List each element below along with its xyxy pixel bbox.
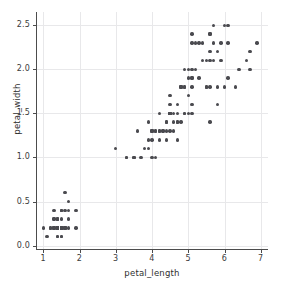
- x-axis-tick: [225, 250, 226, 253]
- data-point: [45, 235, 48, 238]
- data-point: [176, 112, 179, 115]
- y-axis-tick-label: 1.5: [4, 108, 30, 117]
- data-point: [52, 209, 55, 212]
- x-axis-tick: [152, 250, 153, 253]
- data-point: [168, 103, 171, 106]
- y-axis-tick-label: 0.0: [4, 241, 30, 250]
- x-gridline: [188, 12, 189, 250]
- data-point: [147, 147, 150, 150]
- y-axis-tick-label: 2.5: [4, 20, 30, 29]
- x-axis-tick-label: 3: [106, 254, 126, 263]
- data-point: [197, 76, 200, 79]
- data-point: [201, 41, 204, 44]
- data-point: [187, 94, 190, 97]
- data-point: [208, 59, 211, 62]
- data-point: [190, 85, 193, 88]
- data-point: [226, 24, 229, 27]
- data-point: [67, 209, 70, 212]
- x-axis-tick-label: 1: [33, 254, 53, 263]
- x-axis-label: petal_length: [36, 268, 268, 278]
- x-gridline: [80, 12, 81, 250]
- y-axis-tick-label: 2.0: [4, 64, 30, 73]
- data-point: [154, 156, 157, 159]
- x-axis-tick-label: 2: [70, 254, 90, 263]
- data-point: [212, 41, 215, 44]
- data-point: [172, 120, 175, 123]
- data-point: [208, 50, 211, 53]
- data-point: [248, 50, 251, 53]
- data-point: [183, 112, 186, 115]
- data-point: [183, 68, 186, 71]
- x-axis-tick: [80, 250, 81, 253]
- data-point: [60, 217, 63, 220]
- data-point: [187, 76, 190, 79]
- data-point: [136, 129, 139, 132]
- data-point: [172, 112, 175, 115]
- x-axis-tick: [116, 250, 117, 253]
- y-axis-tick: [33, 25, 36, 26]
- data-point: [67, 217, 70, 220]
- data-point: [161, 129, 164, 132]
- data-point: [42, 226, 45, 229]
- x-axis-tick: [261, 250, 262, 253]
- data-point: [205, 85, 208, 88]
- x-axis-tick: [188, 250, 189, 253]
- data-point: [216, 85, 219, 88]
- data-point: [60, 226, 63, 229]
- data-point: [212, 24, 215, 27]
- data-point: [139, 156, 142, 159]
- data-point: [60, 235, 63, 238]
- data-point: [125, 156, 128, 159]
- data-point: [147, 120, 150, 123]
- x-axis-tick-label: 6: [215, 254, 235, 263]
- data-point: [63, 209, 66, 212]
- y-axis-tick-label: 1.0: [4, 152, 30, 161]
- data-point: [234, 85, 237, 88]
- data-point: [183, 85, 186, 88]
- data-point: [226, 41, 229, 44]
- y-gridline: [36, 202, 268, 203]
- x-axis-tick-label: 4: [142, 254, 162, 263]
- data-point: [56, 217, 59, 220]
- data-point: [67, 200, 70, 203]
- y-axis-spine: [36, 12, 37, 250]
- data-point: [74, 226, 77, 229]
- y-axis-tick: [33, 246, 36, 247]
- data-point: [165, 138, 168, 141]
- data-point: [237, 68, 240, 71]
- data-point: [190, 32, 193, 35]
- y-gridline: [36, 246, 268, 247]
- data-point: [63, 191, 66, 194]
- data-point: [208, 120, 211, 123]
- data-point: [63, 226, 66, 229]
- data-point: [190, 112, 193, 115]
- data-point: [223, 85, 226, 88]
- data-point: [208, 32, 211, 35]
- data-point: [179, 120, 182, 123]
- data-point: [158, 112, 161, 115]
- y-axis-tick: [33, 202, 36, 203]
- x-axis-tick: [43, 250, 44, 253]
- data-point: [255, 41, 258, 44]
- y-gridline: [36, 25, 268, 26]
- data-point: [132, 156, 135, 159]
- x-gridline: [225, 12, 226, 250]
- data-point: [143, 147, 146, 150]
- data-point: [150, 138, 153, 141]
- y-axis-tick: [33, 69, 36, 70]
- data-point: [194, 41, 197, 44]
- data-point: [190, 76, 193, 79]
- data-point: [56, 235, 59, 238]
- data-point: [179, 85, 182, 88]
- data-point: [154, 129, 157, 132]
- data-point: [168, 94, 171, 97]
- data-point: [201, 59, 204, 62]
- data-point: [216, 103, 219, 106]
- data-point: [172, 129, 175, 132]
- x-axis-tick-label: 5: [178, 254, 198, 263]
- y-gridline: [36, 69, 268, 70]
- y-axis-tick: [33, 157, 36, 158]
- y-axis-tick-label: 0.5: [4, 197, 30, 206]
- x-gridline: [261, 12, 262, 250]
- data-point: [187, 68, 190, 71]
